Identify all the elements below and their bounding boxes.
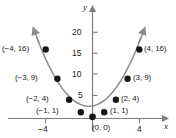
data-point-0-0 [89, 113, 96, 120]
data-point-3-9 [124, 76, 130, 82]
y-tick-label-20: 20 [72, 28, 81, 37]
data-point-neg2-4 [66, 97, 72, 103]
data-point-2-4 [113, 97, 119, 103]
data-point-neg3-9 [54, 76, 60, 82]
data-point-1-1 [101, 109, 107, 115]
point-label-neg4-16: (−4, 16) [2, 45, 29, 53]
point-label-3-9: (3, 9) [133, 74, 151, 82]
point-label-neg1-1: (−1, 1) [36, 107, 59, 115]
point-label-4-16: (4, 16) [144, 45, 166, 53]
data-point-neg4-16 [43, 46, 49, 52]
curve-arrow-left [35, 33, 39, 44]
curve-arrow-right [139, 33, 143, 44]
x-axis-label: x [164, 122, 168, 131]
y-tick-label-5: 5 [78, 91, 83, 100]
y-tick-label-10: 10 [72, 70, 81, 79]
point-label-0-0: (0, 0) [92, 124, 110, 132]
data-point-4-16 [136, 46, 142, 52]
graph-canvas [0, 0, 176, 138]
data-point-neg1-1 [78, 109, 84, 115]
parabola-graph: (−4, 16) (−3, 9) (−2, 4) (−1, 1) (0, 0) … [0, 0, 176, 138]
point-label-neg2-4: (−2, 4) [26, 95, 49, 103]
point-label-2-4: (2, 4) [121, 95, 139, 103]
x-tick-label-4: 4 [137, 125, 142, 134]
x-tick-label-neg4: −4 [38, 125, 48, 134]
point-label-1-1: (1, 1) [110, 107, 128, 115]
point-label-neg3-9: (−3, 9) [15, 74, 38, 82]
y-tick-label-15: 15 [72, 49, 81, 58]
y-axis-label: y [83, 3, 87, 12]
